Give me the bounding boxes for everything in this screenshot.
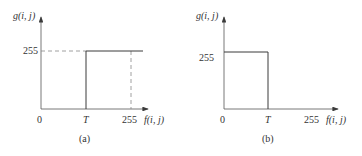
caption-a: (a) [79,133,90,145]
y-axis-label: g(i, j) [196,10,219,22]
x-tick-0: 0 [37,114,42,125]
figure: g(i, j) 255 0 T 255 f(i, j) (a) g(i, j) … [0,0,362,156]
x-tick-T: T [83,114,90,125]
x-tick-255: 255 [304,114,319,125]
transfer-curve [224,52,268,109]
y-axis-label: g(i, j) [13,10,36,22]
transfer-curve [86,51,143,109]
panel-a: g(i, j) 255 0 T 255 f(i, j) (a) [13,10,165,145]
x-axis-label: f(i, j) [326,114,347,126]
x-tick-T: T [265,114,272,125]
y-tick-255: 255 [23,45,38,56]
panel-b: g(i, j) 255 0 T 255 f(i, j) (b) [196,10,347,145]
caption-b: (b) [262,133,274,145]
x-tick-0: 0 [220,114,225,125]
x-axis-label: f(i, j) [144,114,165,126]
x-tick-255: 255 [122,114,137,125]
y-tick-255: 255 [199,52,214,63]
